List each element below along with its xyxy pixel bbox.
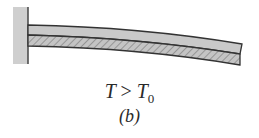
temp-symbol: T xyxy=(105,80,116,102)
reference-temp-symbol: T xyxy=(137,80,148,102)
temperature-condition: T > T0 xyxy=(0,80,259,107)
greater-than-sign: > xyxy=(120,80,131,102)
fixed-wall xyxy=(13,7,28,64)
panel-label: (b) xyxy=(0,106,259,127)
reference-temp-subscript: 0 xyxy=(148,91,155,106)
